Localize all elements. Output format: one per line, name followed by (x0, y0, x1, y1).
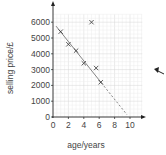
x-tick-label: 8 (112, 120, 117, 130)
y-axis-label: selling price/£ (5, 42, 15, 94)
y-tick-label: 5000 (31, 33, 50, 43)
x-axis-label: age/years (67, 140, 104, 150)
grid (53, 14, 142, 117)
y-tick-label: 0 (45, 112, 50, 122)
y-tick-label: 4000 (31, 49, 50, 59)
y-tick-label: 1000 (31, 96, 50, 106)
x-tick-label: 6 (97, 120, 102, 130)
arrow-icon (154, 67, 164, 74)
data-points (59, 20, 103, 84)
x-tick-label: 0 (51, 120, 56, 130)
x-tick-label: 10 (125, 120, 135, 130)
y-tick-label: 6000 (31, 17, 50, 27)
y-tick-label: 3000 (31, 65, 50, 75)
scatter-chart: 01000200030004000500060000246810 age/yea… (0, 0, 166, 155)
x-tick-label: 2 (66, 120, 71, 130)
y-tick-label: 2000 (31, 80, 50, 90)
x-tick-label: 4 (81, 120, 86, 130)
